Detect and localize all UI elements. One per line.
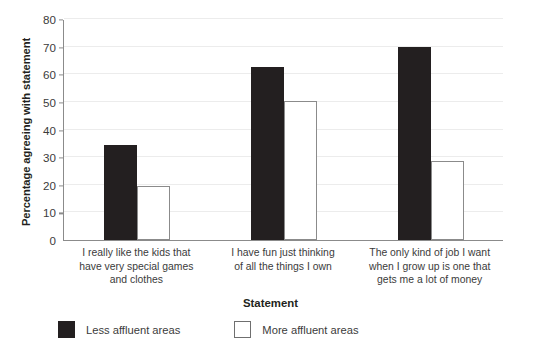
y-tick-label: 70 xyxy=(43,42,56,54)
y-tick-label: 20 xyxy=(43,180,56,192)
y-axis-ticks: 01020304050607080 xyxy=(0,0,63,241)
y-tick-label: 50 xyxy=(43,97,56,109)
bar-more-affluent-group-3 xyxy=(431,161,464,240)
legend-item-more-affluent: More affluent areas xyxy=(234,321,358,338)
legend-label-less-affluent: Less affluent areas xyxy=(86,324,180,336)
bar-less-affluent-group-3 xyxy=(398,47,431,240)
bar-more-affluent-group-1 xyxy=(137,186,170,240)
y-tick-label: 40 xyxy=(43,125,56,137)
legend-swatch-filled-icon xyxy=(58,321,75,338)
x-axis-category-labels: I really like the kids thathave very spe… xyxy=(63,246,503,292)
legend-item-less-affluent: Less affluent areas xyxy=(58,321,180,338)
y-tick-label: 80 xyxy=(43,14,56,26)
bars-layer xyxy=(64,20,503,240)
bar-more-affluent-group-2 xyxy=(284,101,317,241)
plot-area xyxy=(63,20,503,241)
x-axis-title: Statement xyxy=(0,297,541,309)
legend-swatch-open-icon xyxy=(234,321,251,338)
bar-chart: Percentage agreeing with statement 01020… xyxy=(0,0,541,359)
bar-less-affluent-group-2 xyxy=(251,67,284,240)
x-category-label-1: I really like the kids thathave very spe… xyxy=(63,246,210,287)
y-tick-label: 10 xyxy=(43,208,56,220)
x-category-label-3: The only kind of job I wantwhen I grow u… xyxy=(356,246,503,287)
y-tick-label: 60 xyxy=(43,69,56,81)
legend-label-more-affluent: More affluent areas xyxy=(262,324,358,336)
legend: Less affluent areas More affluent areas xyxy=(58,321,359,338)
x-category-label-2: I have fun just thinkingof all the thing… xyxy=(210,246,357,273)
bar-less-affluent-group-1 xyxy=(104,145,137,240)
y-tick-label: 0 xyxy=(50,235,56,247)
y-tick-label: 30 xyxy=(43,152,56,164)
gridline xyxy=(64,18,503,19)
